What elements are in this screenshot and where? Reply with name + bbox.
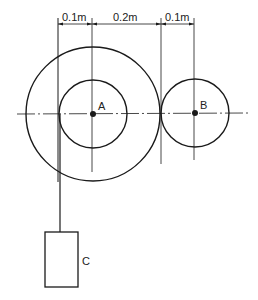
- mass-label-c: C: [82, 256, 90, 267]
- dimension-label-1: 0.1m: [62, 12, 86, 23]
- mass-c-box: [45, 232, 78, 287]
- pulley-diagram: 0.1m 0.2m 0.1m A B C: [0, 0, 258, 300]
- horizontal-centerline: [17, 113, 250, 114]
- dimension-label-3: 0.1m: [165, 12, 189, 23]
- center-point-b: [192, 110, 198, 116]
- point-label-a: A: [98, 101, 105, 112]
- dimension-label-2: 0.2m: [113, 12, 137, 23]
- diagram-drawing: [0, 0, 258, 300]
- center-point-a: [90, 111, 96, 117]
- point-label-b: B: [200, 100, 207, 111]
